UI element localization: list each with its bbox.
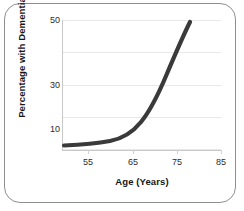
x-axis-title: Age (Years) (58, 176, 226, 187)
y-tick-label-30: 30 (38, 80, 60, 90)
x-tick-label-55: 55 (76, 157, 100, 167)
y-axis-title: Percentage with Dementia (16, 0, 27, 123)
y-tick-label-50: 50 (38, 15, 60, 25)
x-tick-label-75: 75 (165, 157, 189, 167)
y-tick-label-10: 10 (38, 124, 60, 134)
x-tick-label-65: 65 (121, 157, 145, 167)
x-tick-label-85: 85 (209, 157, 233, 167)
dementia-by-age-chart: 50 30 10 55 65 75 85 Percentage with Dem… (0, 0, 244, 211)
